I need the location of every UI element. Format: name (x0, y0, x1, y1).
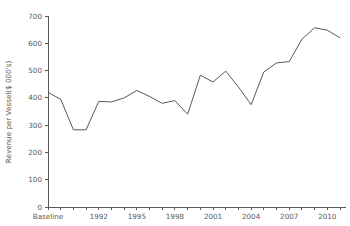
y-tick-label: 300 (28, 121, 42, 130)
x-tick-label: 2007 (280, 212, 298, 221)
y-tick-label: 500 (28, 66, 42, 75)
y-tick-label: 200 (28, 148, 42, 157)
y-axis-title-text: Revenue per Vessel($ 000's) (4, 61, 13, 164)
x-tick-label: 1995 (128, 212, 146, 221)
y-tick-label: 700 (28, 12, 42, 21)
y-axis-ticks: 0100200300400500600700 (28, 12, 48, 212)
x-tick-label: Baseline (33, 212, 64, 221)
x-tick-label: 1998 (166, 212, 185, 221)
x-tick-label: 1992 (90, 212, 108, 221)
x-axis-ticks: Baseline1992199519982001200420072010 (33, 207, 340, 221)
y-tick-label: 400 (28, 93, 42, 102)
y-tick-label: 100 (28, 175, 42, 184)
x-tick-label: 2004 (242, 212, 261, 221)
y-tick-label: 0 (37, 203, 42, 212)
x-axis: Baseline1992199519982001200420072010 (33, 207, 346, 221)
y-axis: 0100200300400500600700 (28, 12, 48, 212)
y-axis-title: Revenue per Vessel($ 000's) (4, 61, 13, 164)
x-tick-label: 2010 (318, 212, 337, 221)
revenue-series-line (48, 28, 340, 130)
x-tick-label: 2001 (204, 212, 222, 221)
y-tick-label: 600 (28, 39, 42, 48)
chart-screenshot: 0100200300400500600700 Baseline199219951… (0, 0, 350, 226)
revenue-per-vessel-line-chart: 0100200300400500600700 Baseline199219951… (0, 0, 350, 226)
